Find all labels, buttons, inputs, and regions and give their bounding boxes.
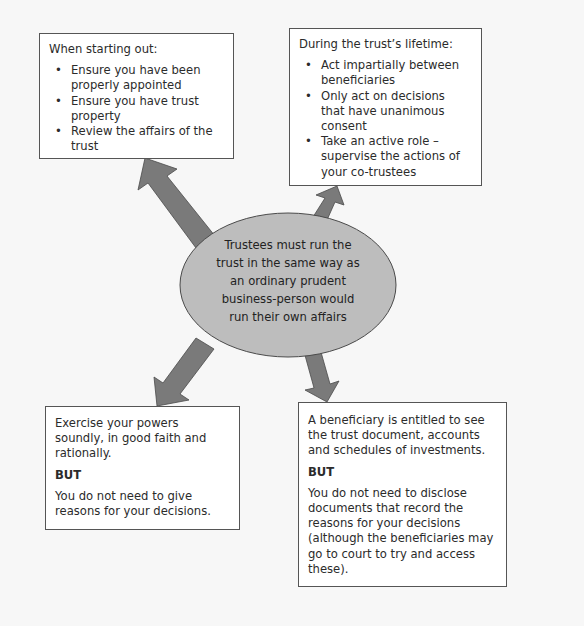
arrow-up-right-icon: [313, 186, 344, 220]
bullet-item: Only act on decisions that have unanimou…: [314, 89, 472, 135]
box-during-lifetime: During the trust’s lifetime: Act imparti…: [289, 28, 482, 186]
center-line: trust in the same way as: [196, 254, 380, 272]
bullet-item: Take an active role – supervise the acti…: [314, 134, 472, 180]
box-heading: When starting out:: [49, 42, 224, 57]
center-statement: Trustees must run the trust in the same …: [196, 236, 380, 326]
box-exercise-powers: Exercise your powers soundly, in good fa…: [45, 406, 240, 530]
box-heading: During the trust’s lifetime:: [299, 37, 472, 52]
arrow-up-left-icon: [138, 158, 215, 248]
box-text: A beneficiary is entitled to see the tru…: [308, 413, 497, 459]
bullet-list: Act impartially between beneficiaries On…: [299, 58, 472, 180]
bullet-item: Ensure you have been properly appointed: [64, 63, 224, 93]
center-line: business-person would: [196, 290, 380, 308]
bullet-item: Review the affairs of the trust: [64, 124, 224, 154]
bullet-list: Ensure you have been properly appointed …: [49, 63, 224, 154]
box-when-starting-out: When starting out: Ensure you have been …: [39, 33, 234, 159]
center-line: Trustees must run the: [196, 236, 380, 254]
arrow-down-left-icon: [154, 338, 214, 406]
box-text: You do not need to disclose documents th…: [308, 486, 497, 577]
center-line: run their own affairs: [196, 308, 380, 326]
but-label: BUT: [55, 468, 230, 483]
box-text: You do not need to give reasons for your…: [55, 489, 230, 519]
box-beneficiary-rights: A beneficiary is entitled to see the tru…: [298, 402, 507, 587]
box-text: Exercise your powers soundly, in good fa…: [55, 416, 230, 462]
bullet-item: Ensure you have trust property: [64, 94, 224, 124]
but-label: BUT: [308, 465, 497, 480]
bullet-item: Act impartially between beneficiaries: [314, 58, 472, 88]
center-line: an ordinary prudent: [196, 272, 380, 290]
